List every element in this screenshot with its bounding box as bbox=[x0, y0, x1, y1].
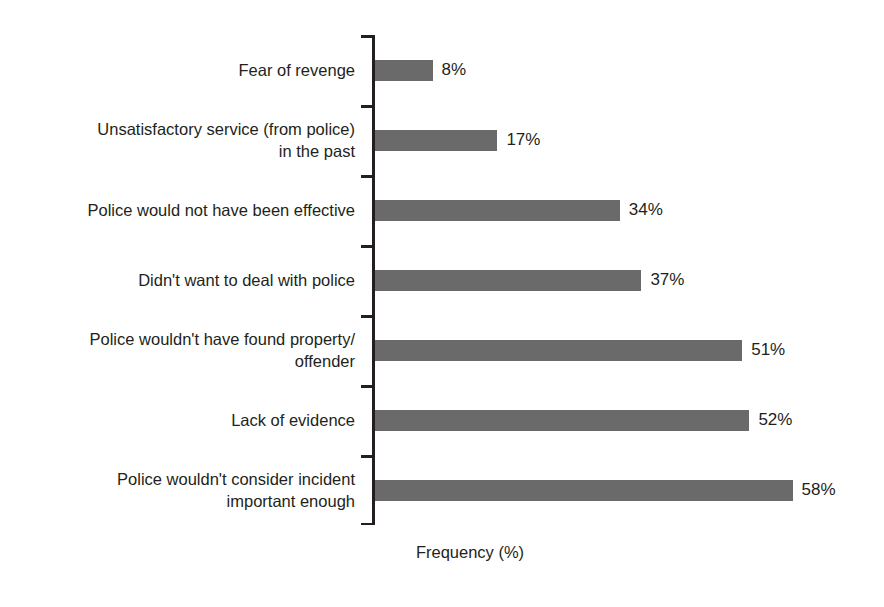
bar bbox=[375, 270, 641, 291]
bar-row: Police wouldn't have found property/ off… bbox=[0, 315, 884, 385]
y-axis-tick bbox=[361, 175, 373, 178]
bar bbox=[375, 200, 620, 221]
category-label: Police would not have been effective bbox=[0, 175, 355, 245]
category-label: Fear of revenge bbox=[0, 35, 355, 105]
category-label: Lack of evidence bbox=[0, 385, 355, 455]
y-axis-tick bbox=[361, 315, 373, 318]
plot-area: Fear of revenge8%Unsatisfactory service … bbox=[0, 0, 884, 607]
bar-value-label: 37% bbox=[650, 266, 684, 294]
category-label: Didn't want to deal with police bbox=[0, 245, 355, 315]
bar bbox=[375, 480, 793, 501]
bar-value-label: 34% bbox=[629, 196, 663, 224]
bar bbox=[375, 130, 497, 151]
bar-value-label: 51% bbox=[751, 336, 785, 364]
bar-value-label: 52% bbox=[758, 406, 792, 434]
y-axis-bottom-cap bbox=[361, 523, 373, 526]
bar-row: Didn't want to deal with police37% bbox=[0, 245, 884, 315]
y-axis-tick bbox=[361, 455, 373, 458]
bar-value-label: 17% bbox=[506, 126, 540, 154]
category-label: Police wouldn't consider incident import… bbox=[0, 455, 355, 525]
bar-row: Police would not have been effective34% bbox=[0, 175, 884, 245]
bar-value-label: 58% bbox=[802, 476, 836, 504]
bar-row: Police wouldn't consider incident import… bbox=[0, 455, 884, 525]
bar-row: Fear of revenge8% bbox=[0, 35, 884, 105]
y-axis-tick bbox=[361, 245, 373, 248]
y-axis-tick bbox=[361, 105, 373, 108]
bar bbox=[375, 340, 742, 361]
bar-value-label: 8% bbox=[442, 56, 467, 84]
bar bbox=[375, 60, 433, 81]
bar-chart: Fear of revenge8%Unsatisfactory service … bbox=[0, 0, 884, 607]
y-axis-tick bbox=[361, 385, 373, 388]
bar bbox=[375, 410, 749, 431]
bar-row: Unsatisfactory service (from police) in … bbox=[0, 105, 884, 175]
category-label: Police wouldn't have found property/ off… bbox=[0, 315, 355, 385]
bar-row: Lack of evidence52% bbox=[0, 385, 884, 455]
y-axis-top-cap bbox=[361, 35, 373, 38]
y-axis-line bbox=[372, 35, 375, 525]
category-label: Unsatisfactory service (from police) in … bbox=[0, 105, 355, 175]
x-axis-title: Frequency (%) bbox=[300, 543, 640, 562]
